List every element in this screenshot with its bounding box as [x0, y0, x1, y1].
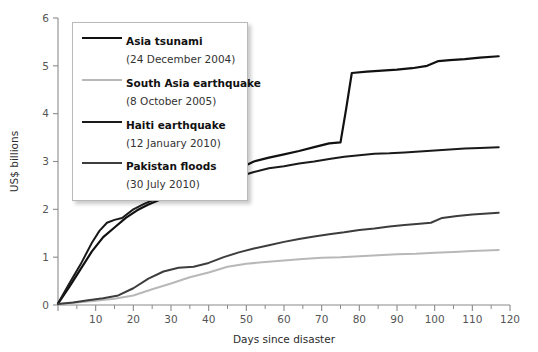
x-tick-label: 90	[390, 313, 403, 325]
legend-swatch-pakistan-floods	[82, 156, 126, 164]
x-tick-label: 80	[353, 313, 366, 325]
series-line-pakistan-floods	[58, 213, 499, 304]
legend-swatch-asia-tsunami	[82, 31, 126, 39]
y-tick-label: 0	[42, 299, 49, 311]
legend-item-haiti-earthquake: Haiti earthquake (12 January 2010)	[82, 115, 238, 151]
legend-label-pakistan-floods: Pakistan floods	[126, 160, 217, 172]
x-tick-label: 60	[277, 313, 290, 325]
legend-item-south-asia-earthquake: South Asia earthquake (8 October 2005)	[82, 73, 238, 109]
y-tick-label: 5	[42, 60, 49, 72]
x-tick-label: 120	[500, 313, 520, 325]
legend-swatch-south-asia-earthquake	[82, 73, 126, 81]
x-tick-label: 10	[89, 313, 102, 325]
x-tick-label: 110	[462, 313, 482, 325]
legend-date-haiti-earthquake: (12 January 2010)	[126, 137, 221, 149]
y-tick-label: 6	[42, 12, 49, 24]
x-tick-label: 20	[127, 313, 140, 325]
legend-swatch-haiti-earthquake	[82, 115, 126, 123]
legend-date-south-asia-earthquake: (8 October 2005)	[126, 95, 216, 107]
legend-date-pakistan-floods: (30 July 2010)	[126, 178, 200, 190]
y-tick-label: 3	[42, 155, 49, 167]
legend-item-pakistan-floods: Pakistan floods (30 July 2010)	[82, 156, 238, 192]
legend-label-haiti-earthquake: Haiti earthquake	[126, 119, 226, 131]
chart-container: 0123456102030405060708090100110120Days s…	[0, 0, 538, 352]
legend-label-asia-tsunami: Asia tsunami	[126, 35, 203, 47]
x-tick-label: 50	[240, 313, 253, 325]
y-axis-title: US$ billions	[8, 131, 20, 192]
y-tick-label: 1	[42, 251, 49, 263]
legend-item-asia-tsunami: Asia tsunami (24 December 2004)	[82, 31, 238, 67]
y-tick-label: 4	[42, 107, 49, 119]
x-tick-label: 40	[202, 313, 215, 325]
x-tick-label: 100	[425, 313, 445, 325]
legend-date-asia-tsunami: (24 December 2004)	[126, 53, 235, 65]
x-tick-label: 30	[164, 313, 177, 325]
x-axis-title: Days since disaster	[233, 333, 336, 345]
series-line-south-asia-earthquake	[58, 250, 499, 304]
y-tick-label: 2	[42, 203, 49, 215]
x-tick-label: 70	[315, 313, 328, 325]
legend-label-south-asia-earthquake: South Asia earthquake	[126, 77, 261, 89]
chart-legend: Asia tsunami (24 December 2004) South As…	[72, 22, 248, 201]
